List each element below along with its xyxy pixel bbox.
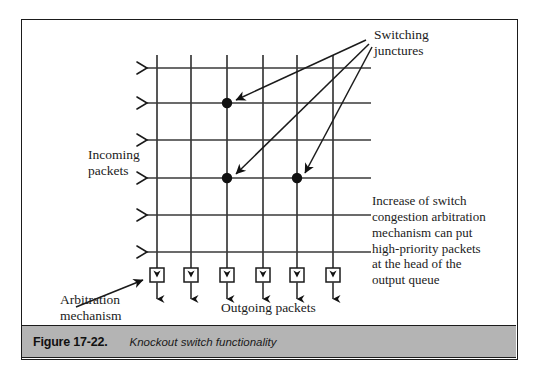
arbitration-mechanism-label: Arbitration mechanism: [60, 292, 121, 324]
input-arrowhead-3: [137, 134, 147, 146]
figure-caption-title: Knockout switch functionality: [130, 336, 277, 348]
switching-juncture-dot: [222, 173, 232, 183]
switching-juncture-callout-arrows: [236, 40, 372, 174]
switching-juncture-dot: [222, 98, 232, 108]
figure-caption-bar: Figure 17-22. Knockout switch functional…: [22, 325, 516, 358]
input-arrowhead-2: [137, 97, 147, 109]
arbitration-box: [326, 268, 340, 299]
output-lines: [157, 55, 333, 268]
input-arrowhead-5: [137, 209, 147, 221]
arbitration-box: [256, 268, 270, 299]
outgoing-packets-label: Outgoing packets: [221, 300, 316, 316]
arbitration-box: [220, 268, 234, 299]
callout-arrow-2: [236, 44, 369, 174]
arbitration-box: [184, 268, 198, 299]
congestion-note-label: Increase of switch congestion arbitratio…: [372, 193, 486, 288]
switching-junctures-label: Switching junctures: [374, 27, 429, 59]
arbitration-box: [290, 268, 304, 299]
incoming-packets-label: Incoming packets: [88, 147, 140, 179]
callout-arrow-1: [236, 40, 366, 100]
input-arrowhead-6: [137, 246, 147, 258]
callout-arrow-3: [305, 47, 372, 173]
figure-caption-number: Figure 17-22.: [33, 335, 108, 349]
input-arrowhead-1: [137, 62, 147, 74]
arbitration-boxes: [150, 268, 340, 299]
arbitration-box: [150, 268, 164, 299]
input-lines: [145, 68, 371, 252]
switching-juncture-dot: [292, 173, 302, 183]
figure-page: Switching junctures Incoming packets Inc…: [0, 0, 539, 383]
